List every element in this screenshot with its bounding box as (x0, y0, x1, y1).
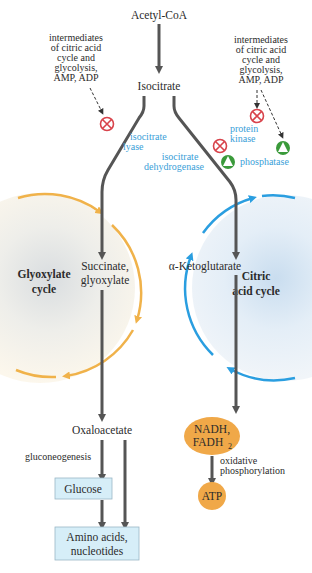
fadh-label: FADH (193, 436, 223, 448)
glyoxylate-cycle-label-2: cycle (32, 283, 56, 296)
inhibit-icon (214, 140, 227, 153)
citric-acid-cycle: Citric acid cycle (185, 195, 312, 381)
node-isocitrate: Isocitrate (138, 80, 181, 92)
glyoxylate-cycle-label: Glyoxylate (17, 268, 70, 281)
inhibit-icon (251, 110, 264, 123)
svg-text:AMP, ADP: AMP, ADP (238, 74, 283, 85)
activate-icon (221, 155, 235, 169)
label-phosphorylation: phosphorylation (220, 465, 285, 476)
right-regulators: intermediates of citric acid cycle and g… (234, 34, 288, 85)
pathway-diagram: Glyoxylate cycle Citric acid cycle (0, 0, 312, 573)
nucleotides-label: nucleotides (71, 545, 124, 557)
node-acetyl-coa: Acetyl-CoA (131, 9, 188, 22)
amino-acids-box: Amino acids, nucleotides (55, 527, 139, 560)
enzyme-phosphatase: phosphatase (240, 156, 289, 167)
amino-acids-label: Amino acids, (66, 531, 127, 544)
glucose-box: Glucose (55, 478, 112, 499)
nadh-fadh2-node: NADH, FADH 2 (184, 417, 240, 455)
glucose-label: Glucose (64, 483, 102, 495)
node-ketoglutarate: α-Ketoglutarate (169, 260, 241, 273)
left-regulators: intermediates of citric acid cycle and g… (49, 32, 103, 83)
enzyme-isocitrate-dehydrogenase-2: dehydrogenase (144, 161, 205, 172)
enzyme-isocitrate-lyase-2: lyase (123, 141, 144, 152)
svg-text:AMP, ADP: AMP, ADP (53, 72, 98, 83)
inhibit-icon (101, 118, 114, 131)
glyoxylate-cycle: Glyoxylate cycle (0, 193, 141, 383)
node-oxaloacetate: Oxaloacetate (72, 424, 132, 436)
label-gluconeogenesis: gluconeogenesis (25, 451, 91, 462)
enzyme-protein-kinase-2: kinase (230, 133, 256, 144)
citric-cycle-label-2: acid cycle (232, 285, 280, 298)
node-glyoxylate: glyoxylate (81, 274, 130, 287)
activate-icon (276, 141, 290, 155)
node-succinate: Succinate, (81, 260, 129, 273)
fadh-subscript: 2 (228, 442, 232, 451)
atp-label: ATP (202, 490, 222, 502)
citric-cycle-label: Citric (242, 270, 271, 282)
atp-node: ATP (198, 482, 226, 510)
nadh-label: NADH, (194, 423, 230, 436)
